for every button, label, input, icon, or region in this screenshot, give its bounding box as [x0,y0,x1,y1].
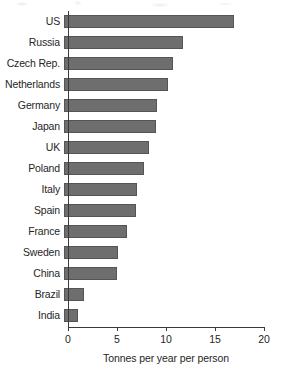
bar [64,225,127,238]
plot-area: USRussiaCzech Rep.NetherlandsGermanyJapa… [0,11,281,331]
bar [64,204,136,217]
bar-track [64,116,281,137]
bar [64,120,156,133]
category-label: Poland [0,163,64,174]
bar-rows: USRussiaCzech Rep.NetherlandsGermanyJapa… [0,11,281,326]
bar-row: Sweden [0,242,281,263]
category-label: Sweden [0,247,64,258]
x-tick [264,327,265,331]
bar-track [64,32,281,53]
bar-row: UK [0,137,281,158]
category-label: Brazil [0,289,64,300]
category-label: Czech Rep. [0,58,64,69]
bar-track [64,53,281,74]
bar [64,99,157,112]
category-label: UK [0,142,64,153]
category-label: Japan [0,121,64,132]
bar-track [64,200,281,221]
category-label: Germany [0,100,64,111]
x-tick-label: 15 [209,333,221,345]
x-tick-label: 5 [114,333,120,345]
category-label: India [0,310,64,321]
bar-track [64,95,281,116]
bar [64,183,137,196]
bar [64,15,234,28]
bar-row: Brazil [0,284,281,305]
bar-row: Poland [0,158,281,179]
bar [64,141,149,154]
bar [64,267,117,280]
bar-chart: USRussiaCzech Rep.NetherlandsGermanyJapa… [0,0,281,377]
x-tick-label: 20 [258,333,270,345]
x-axis-title: Tonnes per year per person [68,352,264,364]
x-tick [166,327,167,331]
bar-track [64,158,281,179]
bar-track [64,11,281,32]
bar-row: US [0,11,281,32]
category-label: Italy [0,184,64,195]
bar-track [64,179,281,200]
bar [64,246,118,259]
category-label: US [0,16,64,27]
bar-row: Czech Rep. [0,53,281,74]
bar-track [64,242,281,263]
bar [64,288,84,301]
x-tick-label: 10 [160,333,172,345]
bar-track [64,263,281,284]
bar-row: Netherlands [0,74,281,95]
bar-row: Germany [0,95,281,116]
bar [64,162,144,175]
bar-row: Russia [0,32,281,53]
x-tick-label: 0 [65,333,71,345]
bar-row: China [0,263,281,284]
bar-row: Japan [0,116,281,137]
category-label: France [0,226,64,237]
bar-track [64,284,281,305]
bar [64,309,78,322]
bar-row: Spain [0,200,281,221]
x-tick [68,327,69,331]
bar-row: France [0,221,281,242]
bar [64,57,173,70]
x-tick [215,327,216,331]
bar [64,78,168,91]
bar-track [64,305,281,326]
bar-row: Italy [0,179,281,200]
category-label: China [0,268,64,279]
bar-track [64,221,281,242]
category-label: Netherlands [0,79,64,90]
bar-track [64,137,281,158]
bar-row: India [0,305,281,326]
bar-track [64,74,281,95]
y-axis-line [68,11,69,327]
scan-artifact [0,0,281,9]
bar [64,36,183,49]
x-tick [117,327,118,331]
category-label: Spain [0,205,64,216]
category-label: Russia [0,37,64,48]
